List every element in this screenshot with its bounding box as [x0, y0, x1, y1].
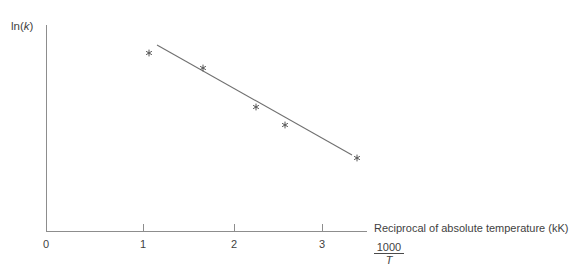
x-tick-label-2: 2: [222, 238, 246, 250]
fraction-denominator: T: [374, 254, 404, 267]
fraction-numerator: 1000: [374, 241, 404, 254]
data-point: [146, 50, 152, 57]
x-axis-label: Reciprocal of absolute temperature (kK): [374, 222, 568, 235]
data-point: [354, 155, 360, 162]
x-tick-label-0: 0: [34, 238, 58, 250]
data-point: [253, 104, 259, 111]
fit-line: [157, 45, 352, 155]
x-tick-label-3: 3: [310, 238, 334, 250]
y-axis-label: ln(k): [11, 20, 33, 33]
x-axis-fraction: 1000 T: [374, 241, 426, 267]
x-tick-label-1: 1: [131, 238, 155, 250]
data-point: [282, 122, 288, 129]
arrhenius-plot: ln(k) 0 1 2 3 Reciprocal of absolute tem…: [0, 0, 577, 273]
y-axis-label-close: ): [30, 20, 34, 32]
y-axis-label-base: ln(: [11, 20, 24, 32]
